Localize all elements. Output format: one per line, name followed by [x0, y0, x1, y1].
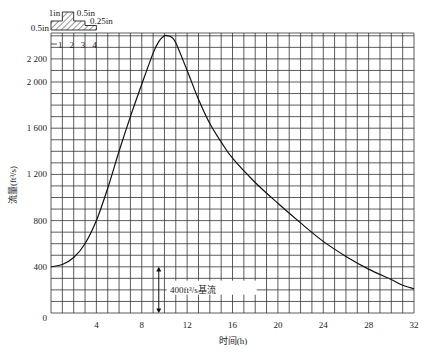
rainfall-hyetograph: 0.5in1in0.5in0.25in1234 — [31, 8, 114, 50]
y-tick-label: 0 — [43, 313, 48, 323]
baseflow-annotation: 400ft³/s基流 — [156, 267, 256, 313]
hour-label: 1 — [58, 40, 63, 50]
baseflow-label: 400ft³/s基流 — [170, 284, 216, 295]
x-tick-label: 8 — [140, 320, 145, 330]
grid — [51, 33, 414, 313]
x-tick-label: 16 — [228, 320, 238, 330]
x-tick-label: 20 — [273, 320, 283, 330]
x-tick-label: 4 — [94, 320, 99, 330]
y-tick-label: 2 000 — [27, 77, 48, 87]
x-tick-label: 28 — [364, 320, 374, 330]
x-tick-label: 32 — [410, 320, 419, 330]
y-tick-label: 2 200 — [27, 54, 48, 64]
x-tick-label: 24 — [319, 320, 329, 330]
hydrograph-chart: 0.5in1in0.5in0.25in1234 4812162024283204… — [0, 0, 425, 355]
hour-label: 4 — [92, 40, 97, 50]
y-axis-label: 流量(ft³/s) — [7, 166, 18, 204]
rain-label-2: 1in — [49, 8, 61, 18]
hour-label: 2 — [69, 40, 74, 50]
y-tick-label: 800 — [34, 216, 48, 226]
y-tick-label: 1 600 — [27, 123, 48, 133]
y-tick-label: 400 — [34, 262, 48, 272]
hour-label: 3 — [81, 40, 86, 50]
rain-label-4: 0.25in — [90, 16, 113, 26]
x-axis-label: 时间(h) — [219, 335, 248, 346]
rain-label-1: 0.5in — [31, 23, 50, 33]
x-tick-label: 12 — [183, 320, 192, 330]
y-tick-label: 1 200 — [27, 169, 48, 179]
